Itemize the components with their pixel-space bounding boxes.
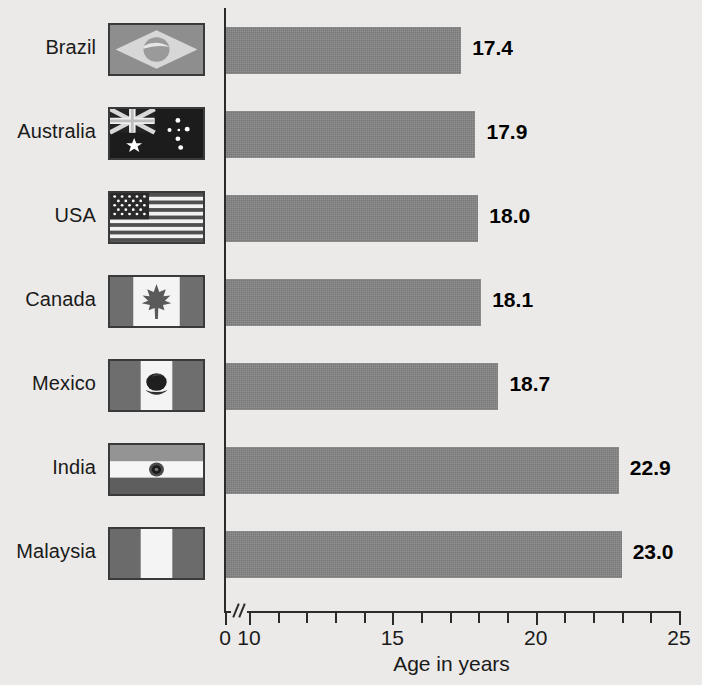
x-tick-label-10: 10	[237, 626, 260, 650]
chart-row: Canada 18.1	[0, 260, 702, 344]
bar-value-canada: 18.1	[492, 288, 533, 312]
bar-value-malaysia: 23.0	[633, 540, 674, 564]
malaysia-flag-icon	[108, 527, 205, 580]
brazil-flag-icon	[108, 23, 205, 76]
australia-flag-icon	[108, 107, 205, 160]
chart-row: Australia 17.9	[0, 92, 702, 176]
x-tick-13	[335, 611, 337, 623]
chart-row: Malaysia 23.0	[0, 512, 702, 596]
bar-value-usa: 18.0	[489, 204, 530, 228]
bar-usa	[225, 195, 478, 242]
chart-row: USA 18.0	[0, 176, 702, 260]
x-tick-17	[450, 611, 452, 623]
canada-flag-icon	[108, 275, 205, 328]
bar-india	[225, 447, 619, 494]
x-tick-22	[593, 611, 595, 623]
bar-mexico	[225, 363, 498, 410]
x-tick-20	[536, 611, 538, 625]
x-tick-label-0: 0	[219, 626, 231, 650]
x-tick-24	[650, 611, 652, 623]
chart-row: India 22.9	[0, 428, 702, 512]
x-tick-11	[278, 611, 280, 623]
country-label-brazil: Brazil	[0, 36, 96, 59]
x-tick-23	[622, 611, 624, 623]
x-tick-label-15: 15	[381, 626, 404, 650]
x-tick-25	[679, 611, 681, 625]
chart-row: Brazil 17.4	[0, 8, 702, 92]
bar-malaysia	[225, 531, 622, 578]
bar-australia	[225, 111, 475, 158]
country-label-australia: Australia	[0, 120, 96, 143]
country-label-mexico: Mexico	[0, 372, 96, 395]
india-flag-icon	[108, 443, 205, 496]
country-label-india: India	[0, 456, 96, 479]
country-label-canada: Canada	[0, 288, 96, 311]
bar-value-australia: 17.9	[486, 120, 527, 144]
bar-value-mexico: 18.7	[509, 372, 550, 396]
country-label-usa: USA	[0, 204, 96, 227]
x-tick-12	[306, 611, 308, 623]
x-tick-label-25: 25	[667, 626, 690, 650]
x-tick-14	[364, 611, 366, 623]
bar-canada	[225, 279, 481, 326]
mexico-flag-icon	[108, 359, 205, 412]
x-axis-label: Age in years	[224, 652, 679, 676]
x-tick-15	[392, 611, 394, 625]
x-tick-label-20: 20	[524, 626, 547, 650]
y-axis-line	[224, 8, 226, 612]
x-tick-19	[507, 611, 509, 623]
bar-chart: Brazil 17.4Australia 17.9USA	[0, 0, 702, 685]
bar-brazil	[225, 27, 461, 74]
axis-break-icon	[232, 600, 250, 622]
x-tick-0	[225, 611, 227, 625]
usa-flag-icon	[108, 191, 205, 244]
chart-row: Mexico 18.7	[0, 344, 702, 428]
bar-value-india: 22.9	[630, 456, 671, 480]
x-tick-16	[421, 611, 423, 623]
bar-value-brazil: 17.4	[472, 36, 513, 60]
x-tick-18	[478, 611, 480, 623]
x-tick-21	[564, 611, 566, 623]
country-label-malaysia: Malaysia	[0, 540, 96, 563]
